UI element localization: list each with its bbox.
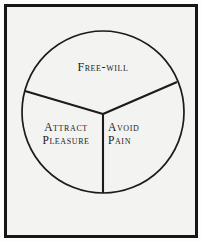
attract-text: Attract (33, 121, 99, 134)
free-will-text: Free-will (43, 61, 163, 74)
segment-label-attract-pleasure: Attract Pleasure (33, 121, 99, 146)
circle-diagram (0, 0, 202, 242)
figure-canvas: Free-will Attract Pleasure Avoid Pain (0, 0, 202, 242)
avoid-text: Avoid (108, 121, 170, 134)
segment-label-avoid-pain: Avoid Pain (108, 121, 170, 146)
divider-upper-right-line (103, 82, 177, 114)
pleasure-text: Pleasure (33, 134, 99, 147)
segment-label-free-will: Free-will (43, 61, 163, 74)
pain-text: Pain (108, 134, 170, 147)
divider-upper-left-line (25, 91, 103, 114)
